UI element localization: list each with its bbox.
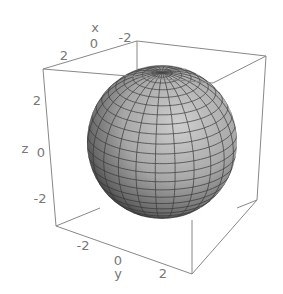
- x-tick-label: 2: [60, 49, 68, 62]
- y-tick-label: 2: [159, 267, 167, 280]
- x-axis-label: x: [91, 21, 99, 34]
- y-axis-label: y: [114, 267, 122, 280]
- x-tick-label: -2: [119, 31, 132, 44]
- z-tick-label: 0: [37, 146, 45, 159]
- x-tick-label: 0: [90, 37, 98, 50]
- sphere-surface: [86, 65, 238, 219]
- y-tick-label: -2: [77, 239, 90, 252]
- z-axis-label: z: [22, 142, 29, 155]
- z-tick-label: 2: [33, 94, 41, 107]
- z-tick-label: -2: [34, 192, 47, 205]
